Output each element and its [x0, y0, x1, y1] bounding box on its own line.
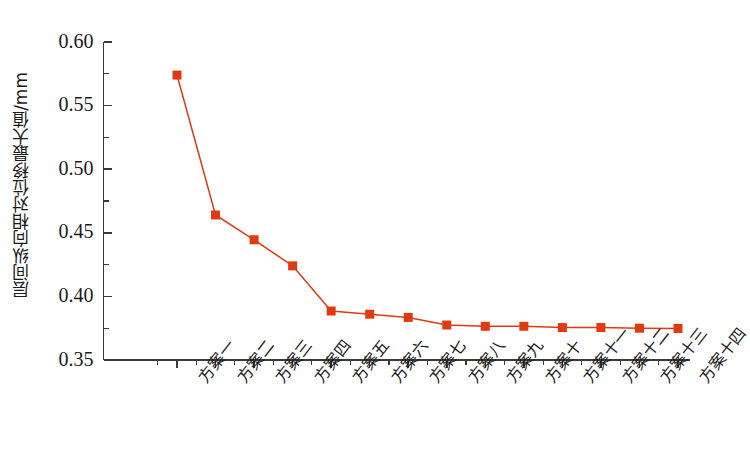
y-tick-label: 0.40	[59, 284, 94, 306]
data-point-marker	[519, 322, 528, 331]
data-point-marker	[250, 235, 259, 244]
data-point-marker	[173, 71, 182, 80]
y-axis-tick-labels: 0.350.400.450.500.550.60	[59, 30, 94, 370]
data-point-marker	[558, 323, 567, 332]
series-markers	[173, 71, 683, 333]
data-point-marker	[481, 322, 490, 331]
data-point-marker	[365, 310, 374, 319]
x-axis-ticks	[158, 360, 678, 368]
data-point-marker	[288, 261, 297, 270]
y-axis-title-text: 层间纵向相对位移最大值/mm	[8, 72, 33, 298]
y-tick-label: 0.45	[59, 220, 94, 242]
y-tick-label: 0.50	[59, 157, 94, 179]
series-line-path	[177, 75, 678, 328]
y-tick-label: 0.55	[59, 93, 94, 115]
data-point-marker	[635, 324, 644, 333]
y-axis-title: 层间纵向相对位移最大值/mm	[0, 0, 40, 370]
y-axis-ticks	[104, 42, 112, 360]
data-point-marker	[327, 307, 336, 316]
data-point-marker	[596, 323, 605, 332]
data-point-marker	[211, 210, 220, 219]
data-point-marker	[404, 313, 413, 322]
data-point-marker	[674, 324, 683, 333]
y-tick-label: 0.35	[59, 348, 94, 370]
data-point-marker	[442, 321, 451, 330]
y-tick-label: 0.60	[59, 30, 94, 52]
